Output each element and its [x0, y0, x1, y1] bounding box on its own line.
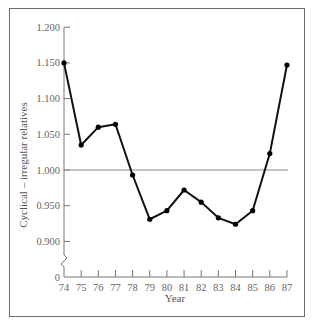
x-tick-label: 87: [282, 282, 293, 293]
x-tick-label: 84: [230, 282, 241, 293]
data-point: [96, 125, 101, 130]
y-tick-label: 1.000: [36, 165, 60, 176]
y-tick-label: 1.100: [36, 93, 60, 104]
data-point: [181, 187, 186, 192]
x-tick-label: 77: [110, 282, 121, 293]
data-point: [216, 215, 221, 220]
data-point: [147, 217, 152, 222]
data-point: [199, 200, 204, 205]
y-tick-label: 1.050: [36, 129, 60, 140]
axes: [61, 27, 287, 277]
x-tick-label: 86: [265, 282, 276, 293]
y-tick-label: 0: [55, 272, 60, 283]
y-tick-label: 1.150: [36, 57, 60, 68]
axis-break-icon: [61, 255, 67, 267]
y-tick-label: 0.900: [36, 236, 60, 247]
data-point: [79, 142, 84, 147]
x-tick-label: 78: [127, 282, 138, 293]
x-tick-label: 82: [196, 282, 207, 293]
line-chart: 00.9000.9501.0001.0501.1001.1501.200 747…: [0, 0, 314, 328]
y-tick-label: 1.200: [36, 22, 60, 33]
x-tick-label: 83: [213, 282, 224, 293]
data-point: [164, 208, 169, 213]
data-point: [113, 122, 118, 127]
data-point: [233, 222, 238, 227]
y-tick-label: 0.950: [36, 200, 60, 211]
data-point: [267, 151, 272, 156]
x-tick-label: 75: [76, 282, 87, 293]
data-point: [250, 208, 255, 213]
x-axis-ticks: 7475767778798081828384858687: [59, 270, 292, 293]
series-line: [64, 63, 287, 224]
x-tick-label: 79: [145, 282, 156, 293]
data-point: [61, 60, 66, 65]
x-tick-label: 74: [59, 282, 70, 293]
x-axis-title: Year: [165, 292, 186, 304]
y-axis-title: Cyclical – irregular relatives: [17, 102, 29, 228]
x-tick-label: 76: [93, 282, 104, 293]
data-point: [130, 172, 135, 177]
data-point: [284, 62, 289, 67]
x-tick-label: 85: [247, 282, 258, 293]
